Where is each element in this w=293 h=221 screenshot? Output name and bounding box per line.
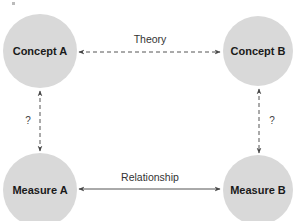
node-label-measure-b: Measure B (230, 184, 286, 196)
corner-mark (12, 2, 15, 5)
edge-label-right-question: ? (269, 115, 275, 126)
edge-relationship: Relationship (79, 171, 220, 189)
edge-left-vertical: ? (25, 91, 40, 151)
edge-label-left-question: ? (25, 115, 31, 126)
node-label-concept-a: Concept A (13, 45, 68, 57)
edge-label-relationship: Relationship (121, 171, 179, 183)
node-measure-b: Measure B (223, 155, 293, 221)
node-concept-b: Concept B (223, 16, 293, 86)
node-concept-a: Concept A (3, 14, 77, 88)
node-label-measure-a: Measure A (12, 184, 67, 196)
edge-right-vertical: ? (259, 89, 275, 153)
edge-label-theory: Theory (134, 33, 167, 45)
concept-measure-diagram: Concept A Concept B Measure A Measure B … (0, 0, 293, 221)
node-label-concept-b: Concept B (231, 45, 286, 57)
edge-theory: Theory (79, 33, 220, 52)
node-measure-a: Measure A (3, 153, 77, 221)
